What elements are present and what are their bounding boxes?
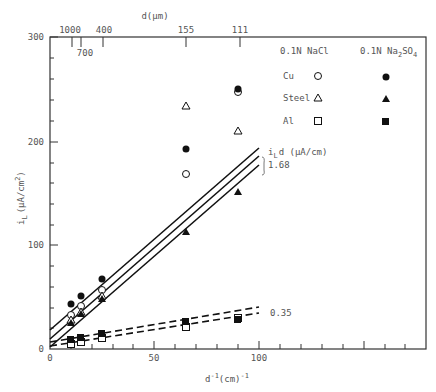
slope-035: 0.35 (270, 308, 292, 318)
x-ticks (71, 341, 405, 349)
top-axis-label: d(µm) (141, 11, 168, 21)
bracket-icon (262, 157, 264, 175)
open-square-icon (315, 118, 322, 125)
y-tick-0: 0 (39, 344, 44, 354)
top-ticks (72, 37, 240, 47)
legend-al: Al (283, 116, 294, 126)
x-tick-50: 50 (149, 353, 160, 363)
y-axis-label: iL(µA/cm2) (14, 171, 29, 225)
open-circle-icon (315, 73, 322, 80)
y-ticks (50, 37, 58, 328)
filled-circle-icon (383, 74, 390, 81)
open-triangle-icon (314, 94, 322, 101)
top-tick-400: 400 (96, 25, 112, 35)
top-tick-111: 111 (232, 25, 248, 35)
legend-steel: Steel (283, 93, 310, 103)
slope-168: 1.68 (268, 160, 290, 170)
series-cu-na2so4 (68, 86, 242, 308)
x-axis-label: d-1(cm)-1 (205, 372, 249, 384)
top-tick-1000: 1000 (59, 25, 81, 35)
series-steel-nacl (67, 102, 242, 323)
filled-triangle-icon (382, 95, 390, 102)
y-tick-300: 300 (28, 32, 44, 42)
y-tick-200: 200 (28, 137, 44, 147)
y-tick-100: 100 (28, 240, 44, 250)
legend-cu: Cu (283, 71, 294, 81)
x-tick-0: 0 (47, 353, 52, 363)
top-tick-155: 155 (178, 25, 194, 35)
top-tick-700: 700 (77, 48, 93, 58)
chart: 300 200 100 0 0 50 100 1000 700 400 155 … (0, 0, 436, 392)
legend-col-na2so4: 0.1N Na2SO4 (360, 46, 417, 59)
ild-annotation: iLd (µA/cm) (268, 147, 327, 160)
filled-square-icon (382, 118, 389, 125)
legend-col-nacl: 0.1N NaCl (280, 46, 329, 56)
x-tick-100: 100 (251, 353, 267, 363)
